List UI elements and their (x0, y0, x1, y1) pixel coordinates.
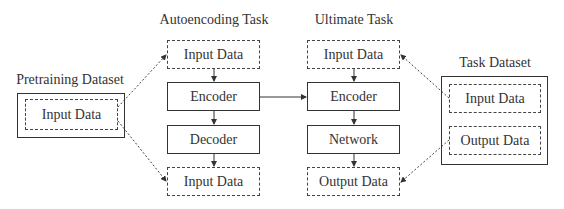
task-input-data: Input Data (449, 84, 541, 113)
ut-output-data-bottom: Output Data (307, 167, 400, 196)
task-dataset-title: Task Dataset (441, 55, 549, 71)
ut-input-data-top: Input Data (307, 40, 400, 69)
ae-input-data-bottom: Input Data (167, 167, 260, 196)
ut-encoder: Encoder (307, 82, 400, 111)
arrow-pretrain-to-ae-output (118, 121, 166, 181)
autoencoding-task-title: Autoencoding Task (152, 12, 276, 28)
pretraining-dataset-title: Pretraining Dataset (5, 72, 135, 88)
ae-input-data-top: Input Data (167, 40, 260, 69)
task-output-data: Output Data (449, 126, 541, 155)
ae-decoder: Decoder (167, 125, 260, 154)
ultimate-task-title: Ultimate Task (300, 12, 408, 28)
ut-network: Network (307, 125, 400, 154)
ae-encoder: Encoder (167, 82, 260, 111)
pretraining-input-data: Input Data (25, 99, 118, 130)
